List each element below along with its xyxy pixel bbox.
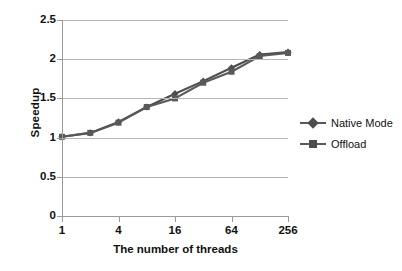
legend-item-native-mode[interactable]: Native Mode <box>300 112 400 133</box>
x-tick-mark <box>232 217 233 222</box>
x-tick-label: 16 <box>169 225 182 237</box>
x-tick-mark <box>175 217 176 222</box>
diamond-marker-icon <box>300 117 326 129</box>
y-tick-label: 1 <box>26 132 56 144</box>
y-tick-mark <box>57 177 62 178</box>
square-marker-icon <box>285 50 291 56</box>
square-marker-icon <box>200 80 206 86</box>
x-tick-label: 4 <box>115 225 121 237</box>
x-axis-title: The number of threads <box>62 243 289 255</box>
speedup-line-chart: Speedup 00.511.522.5 141664256 The numbe… <box>0 0 402 271</box>
y-tick-mark <box>57 138 62 139</box>
series-layer <box>62 20 288 216</box>
square-marker-icon <box>300 138 326 150</box>
y-tick-mark <box>57 59 62 60</box>
x-tick-label: 256 <box>278 225 297 237</box>
y-axis-line <box>62 20 63 217</box>
y-tick-mark <box>57 20 62 21</box>
gridline <box>62 98 288 99</box>
square-marker-icon <box>257 53 263 59</box>
y-tick-label: 0 <box>26 210 56 222</box>
legend-item-offload[interactable]: Offload <box>300 133 400 154</box>
gridline <box>62 177 288 178</box>
y-tick-label: 1.5 <box>26 92 56 104</box>
square-marker-icon <box>116 120 122 126</box>
square-marker-icon <box>229 69 235 75</box>
plot-area <box>62 20 288 216</box>
chart-legend: Native Mode Offload <box>300 112 400 154</box>
square-marker-icon <box>87 130 93 136</box>
x-tick-mark <box>62 217 63 222</box>
gridline <box>62 138 288 139</box>
square-marker-icon <box>144 104 150 110</box>
x-tick-mark <box>119 217 120 222</box>
x-tick-label: 1 <box>59 225 65 237</box>
y-tick-mark <box>57 98 62 99</box>
y-axis-tick-labels: 00.511.522.5 <box>26 0 56 271</box>
gridline <box>62 59 288 60</box>
x-tick-label: 64 <box>225 225 238 237</box>
y-tick-label: 2.5 <box>26 14 56 26</box>
legend-label-offload: Offload <box>326 138 366 150</box>
gridline <box>62 20 288 21</box>
x-tick-mark <box>288 217 289 222</box>
legend-label-native-mode: Native Mode <box>326 117 393 129</box>
y-tick-label: 2 <box>26 53 56 65</box>
y-tick-label: 0.5 <box>26 171 56 183</box>
